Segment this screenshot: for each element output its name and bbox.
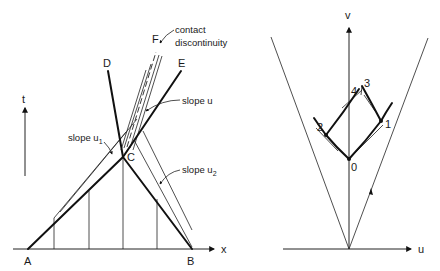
point-label-A: A bbox=[24, 255, 32, 267]
curve-0-2 bbox=[326, 135, 349, 159]
point-label-F: F bbox=[152, 33, 159, 45]
segment-3-4 bbox=[361, 86, 362, 95]
left-panel-xt-diagram: x t A B C D E F contact di bbox=[13, 24, 228, 267]
direction-arrow bbox=[369, 188, 373, 195]
point-label-C: C bbox=[127, 151, 135, 163]
u-axis-label: u bbox=[418, 243, 424, 255]
point-label-D: D bbox=[103, 57, 111, 69]
point-label-0: 0 bbox=[351, 161, 357, 173]
point-label-2: 2 bbox=[317, 121, 323, 133]
x-axis-label: x bbox=[221, 243, 227, 255]
annotation-slope-u2: slope u2 bbox=[182, 164, 217, 177]
point-1 bbox=[379, 119, 383, 123]
right-panel-uv-diagram: u v 0 1 2 3 4 bbox=[271, 9, 428, 255]
annotation-contact: contact bbox=[175, 24, 206, 35]
curve-1-3 bbox=[362, 86, 381, 121]
point-label-1: 1 bbox=[385, 118, 391, 130]
contact-discontinuity-dashed bbox=[127, 52, 156, 147]
curve-0-1 bbox=[349, 121, 381, 159]
point-label-B: B bbox=[187, 255, 194, 267]
annotation-slope-u1: slope u1 bbox=[68, 132, 103, 145]
annotation-slope-u: slope u bbox=[182, 95, 213, 106]
boundary-line-left bbox=[271, 37, 349, 249]
line-A-C bbox=[28, 157, 123, 249]
point-label-3: 3 bbox=[364, 77, 370, 89]
line-C-E bbox=[123, 71, 181, 157]
annotation-discontinuity: discontinuity bbox=[175, 37, 228, 48]
point-label-4: 4 bbox=[351, 85, 357, 97]
boundary-line-right bbox=[349, 38, 428, 249]
point-label-E: E bbox=[178, 57, 185, 69]
leader-arrow-slope-u bbox=[146, 100, 180, 111]
point-2 bbox=[324, 133, 328, 137]
figure-canvas: x t A B C D E F contact di bbox=[0, 0, 440, 271]
leader-arrow-slope-u1 bbox=[104, 142, 112, 154]
characteristic-u2 bbox=[134, 140, 192, 247]
leader-arrow-contact bbox=[160, 30, 174, 43]
v-axis-label: v bbox=[345, 9, 351, 21]
t-axis-label: t bbox=[22, 93, 25, 105]
